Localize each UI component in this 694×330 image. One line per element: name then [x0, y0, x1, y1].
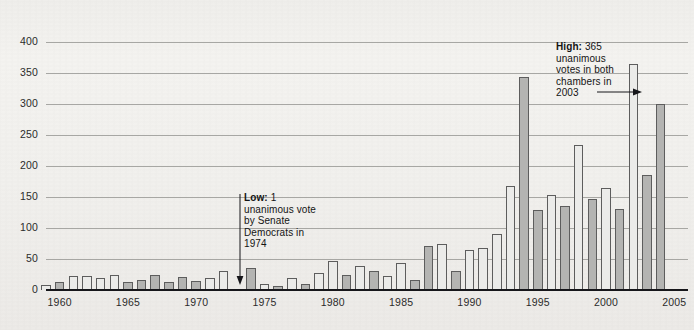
bar	[615, 209, 625, 290]
annotation-low-headline: Low: 1	[244, 192, 316, 204]
bar	[69, 276, 79, 290]
y-axis-tick-label: 300	[2, 97, 38, 109]
annotation-low-line1: unanimous vote	[244, 204, 316, 216]
bar	[588, 199, 598, 290]
bar	[601, 188, 611, 290]
annotation-low-line3: Democrats in	[244, 227, 316, 239]
bar	[492, 234, 502, 290]
annotation-high-headline: High: 365	[556, 41, 614, 53]
bar	[396, 263, 406, 290]
x-axis-tick-label: 1990	[444, 296, 494, 308]
bar	[219, 271, 229, 290]
bar	[560, 206, 570, 290]
gridline	[46, 104, 688, 105]
annotation-high-value: 365	[585, 41, 602, 52]
annotation-low-label: Low:	[244, 192, 268, 203]
x-axis-tick-label: 2005	[649, 296, 694, 308]
bar	[642, 175, 652, 290]
bar	[465, 250, 475, 290]
x-axis-tick-label: 1995	[513, 296, 563, 308]
annotation-high-line1: unanimous	[556, 53, 614, 65]
x-axis-tick-label: 1970	[171, 296, 221, 308]
bar	[355, 266, 365, 290]
annotation-high-line2: votes in both	[556, 64, 614, 76]
annotation-low-value: 1	[271, 192, 277, 203]
bar	[506, 186, 516, 290]
bar	[478, 248, 488, 290]
y-axis-tick-label: 200	[2, 159, 38, 171]
bar	[246, 268, 256, 290]
y-axis-tick-label: 100	[2, 221, 38, 233]
bar	[369, 271, 379, 290]
bar	[533, 210, 543, 290]
x-axis-tick-label: 1975	[240, 296, 290, 308]
bar	[574, 145, 584, 290]
y-axis-tick-label: 250	[2, 128, 38, 140]
y-axis-tick-label: 0	[2, 283, 38, 295]
unanimous-votes-bar-chart: 050100150200250300350400 196019651970197…	[0, 0, 694, 330]
annotation-low-line4: 1974	[244, 238, 316, 250]
annotation-low: Low: 1 unanimous vote by Senate Democrat…	[244, 192, 316, 250]
bar	[519, 77, 529, 290]
gridline	[46, 166, 688, 167]
y-axis-tick-label: 400	[2, 35, 38, 47]
y-axis-tick-label: 150	[2, 190, 38, 202]
annotation-low-line2: by Senate	[244, 215, 316, 227]
gridline	[46, 135, 688, 136]
bar	[110, 275, 120, 290]
x-axis-tick-label: 2000	[581, 296, 631, 308]
bar	[342, 275, 352, 290]
bar	[383, 276, 393, 290]
y-axis-tick-label: 50	[2, 252, 38, 264]
x-axis-tick-label: 1980	[308, 296, 358, 308]
bar	[82, 276, 92, 290]
bar	[424, 246, 434, 290]
bar	[451, 271, 461, 290]
bar	[547, 195, 557, 290]
gridline	[46, 197, 688, 198]
annotation-high-label: High:	[556, 41, 582, 52]
annotation-low-arrow-down-icon	[234, 194, 246, 286]
bar	[150, 275, 160, 291]
bar	[656, 104, 666, 290]
bar	[437, 244, 447, 291]
x-axis-tick-label: 1985	[376, 296, 426, 308]
y-axis-tick-label: 350	[2, 66, 38, 78]
bar	[328, 261, 338, 290]
bar	[314, 273, 324, 290]
x-axis-tick-label: 1960	[35, 296, 85, 308]
x-axis-line	[46, 289, 688, 291]
annotation-high-arrow-right-icon	[597, 86, 643, 98]
x-axis-tick-label: 1965	[103, 296, 153, 308]
